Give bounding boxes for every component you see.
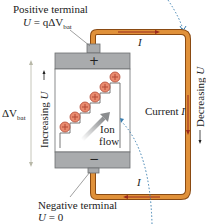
delta-v-arrow-down-icon bbox=[29, 162, 33, 167]
delta-v-arrow-up-icon bbox=[29, 60, 33, 65]
arrow-up-icon bbox=[43, 70, 46, 74]
positive-leader-line bbox=[70, 30, 90, 46]
arrow-down-icon bbox=[199, 140, 202, 144]
increasing-u-label: Increasing U bbox=[38, 91, 50, 148]
current-label: Current I bbox=[145, 105, 185, 117]
top-current-label: I bbox=[138, 36, 142, 48]
negative-leader-line bbox=[70, 172, 90, 197]
positive-terminal-equation: U = qΔVbat bbox=[23, 16, 72, 33]
decreasing-u-label: Decreasing U bbox=[194, 67, 206, 127]
dotted-path-top bbox=[168, 0, 183, 30]
ion-flow-label-line2: flow bbox=[99, 135, 119, 147]
plus-sign: + bbox=[89, 55, 99, 67]
ion-flow-label-line1: Ion bbox=[100, 123, 115, 135]
bottom-current-label: I bbox=[137, 176, 141, 188]
positive-terminal-label: Positive terminal bbox=[13, 3, 88, 15]
delta-v-bat-label: ΔVbat bbox=[2, 107, 26, 124]
negative-terminal-equation: U = 0 bbox=[38, 211, 63, 223]
negative-terminal-label: Negative terminal bbox=[38, 199, 117, 211]
minus-sign: − bbox=[89, 153, 99, 165]
